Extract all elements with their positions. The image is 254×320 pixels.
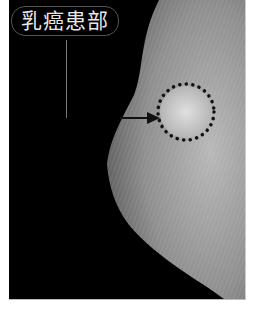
image-label: 乳癌患部 — [11, 6, 119, 36]
label-leader-line — [66, 40, 67, 118]
tumor-region — [160, 86, 212, 138]
breast-tissue — [9, 0, 245, 299]
mammogram-image: 乳癌患部 — [9, 0, 246, 300]
